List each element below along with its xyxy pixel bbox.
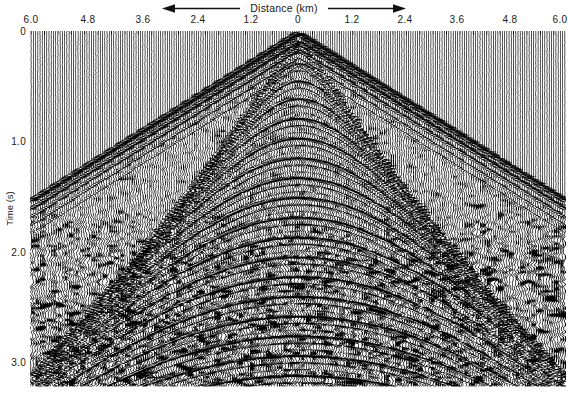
distance-axis-title-group: Distance (km) <box>0 1 568 15</box>
seismic-wiggle-plot <box>30 31 566 387</box>
x-axis-title: Distance (km) <box>240 2 327 14</box>
x-tick-label: 1.2 <box>345 14 360 25</box>
y-tick-label: 3.0 <box>4 357 26 368</box>
y-tick-label: 0 <box>4 26 26 37</box>
y-axis-title-wrapper: Time (s) <box>1 178 17 238</box>
x-tick-label: 4.8 <box>81 14 96 25</box>
y-tick-label: 2.0 <box>4 247 26 258</box>
left-arrow-icon <box>162 3 240 14</box>
x-tick-label: 2.4 <box>398 14 413 25</box>
x-tick-label: 6.0 <box>553 14 568 25</box>
seismic-figure: Distance (km) 6.04.83.62.41.201.22.43.64… <box>0 0 568 401</box>
x-tick-label: 3.6 <box>450 14 465 25</box>
right-arrow-icon <box>328 3 406 14</box>
x-tick-label: 6.0 <box>24 14 39 25</box>
x-tick-label: 2.4 <box>191 14 206 25</box>
y-tick-label: 1.0 <box>4 136 26 147</box>
x-tick-label: 4.8 <box>503 14 518 25</box>
x-tick-label: 0 <box>295 14 301 25</box>
y-axis-title: Time (s) <box>4 179 15 239</box>
x-tick-label: 1.2 <box>244 14 259 25</box>
x-tick-label: 3.6 <box>136 14 151 25</box>
